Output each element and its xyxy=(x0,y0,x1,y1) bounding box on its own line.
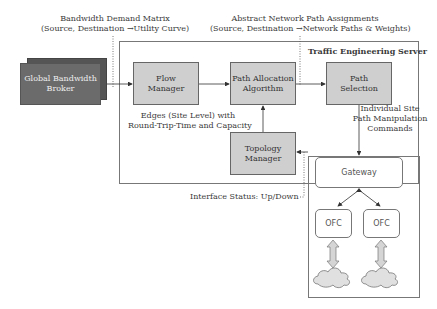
commands-annotation-line3: Commands xyxy=(345,124,435,134)
commands-annotation-line1: Individual Site xyxy=(345,104,435,114)
network-cloud-icon xyxy=(312,266,352,288)
gateway-node: Gateway xyxy=(315,157,403,188)
flow-manager-node: Flow Manager xyxy=(133,62,199,105)
flow-manager-label-line2: Manager xyxy=(148,84,185,94)
topology-manager-node: Topology Manager xyxy=(230,132,296,175)
edges-annotation-line1: Edges (Site Level) with xyxy=(128,111,248,121)
path-selection-node: Path Selection xyxy=(326,62,392,105)
commands-annotation: Individual Site Path Manipulation Comman… xyxy=(345,104,435,134)
topology-manager-label-line2: Manager xyxy=(245,154,282,164)
edges-annotation: Edges (Site Level) with Round-Trip-Time … xyxy=(128,111,248,131)
path-selection-label-line1: Path xyxy=(340,74,378,84)
path-selection-label-line2: Selection xyxy=(340,84,378,94)
edges-annotation-line2: Round-Trip-Time and Capacity xyxy=(128,121,248,131)
global-bandwidth-broker-node: Global Bandwidth Broker xyxy=(20,63,101,105)
path-allocation-node: Path Allocation Algorithm xyxy=(230,62,296,105)
path-allocation-label-line1: Path Allocation xyxy=(232,74,293,84)
ofc-right-node: OFC xyxy=(363,209,400,238)
network-cloud-icon xyxy=(360,266,400,288)
broker-label-line1: Global Bandwidth xyxy=(24,74,97,84)
ofc-left-node: OFC xyxy=(315,209,352,238)
commands-annotation-line2: Path Manipulation xyxy=(345,114,435,124)
interface-status-annotation: Interface Status: Up/Down xyxy=(190,192,298,202)
connectors xyxy=(0,0,437,309)
broker-label-line2: Broker xyxy=(24,84,97,94)
topology-manager-label-line1: Topology xyxy=(245,144,282,154)
path-allocation-label-line2: Algorithm xyxy=(232,84,293,94)
flow-manager-label-line1: Flow xyxy=(148,74,185,84)
